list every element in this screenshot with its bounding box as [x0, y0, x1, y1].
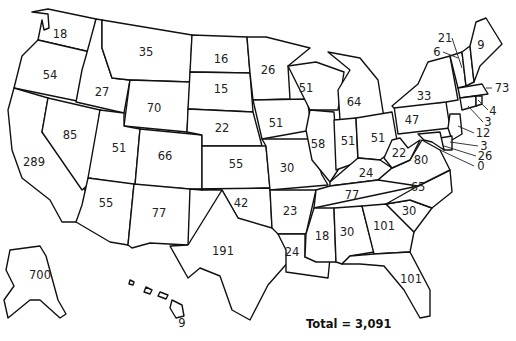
label-wa: 18 [53, 27, 68, 41]
state-me [470, 18, 502, 82]
us-map: 18 54 289 27 85 35 70 51 66 55 77 16 15 … [0, 0, 516, 341]
label-ny: 33 [417, 89, 432, 103]
label-nm: 77 [152, 206, 167, 220]
label-wi: 51 [299, 81, 314, 95]
label-mi: 64 [347, 95, 362, 109]
label-va: 80 [414, 153, 429, 167]
label-ut: 51 [112, 141, 127, 155]
label-ms: 18 [315, 229, 330, 243]
label-wy: 70 [147, 101, 162, 115]
label-id: 27 [95, 85, 110, 99]
label-mt: 35 [139, 45, 154, 59]
label-tn: 77 [345, 188, 360, 202]
label-fl: 101 [400, 272, 422, 286]
label-ca: 289 [23, 155, 45, 169]
label-nc: 65 [411, 180, 426, 194]
total-label: Total = 3,091 [306, 317, 391, 331]
label-ky: 24 [359, 166, 374, 180]
state-ct [460, 96, 476, 110]
label-al: 30 [340, 225, 355, 239]
label-ks: 55 [229, 157, 244, 171]
label-az: 55 [99, 196, 114, 210]
label-or: 54 [43, 68, 58, 82]
label-il: 58 [311, 137, 326, 151]
label-wv: 22 [392, 146, 407, 160]
label-ia: 51 [269, 116, 284, 130]
label-ma: 73 [495, 81, 510, 95]
label-vt: 21 [438, 31, 453, 45]
label-in: 51 [341, 134, 356, 148]
label-mn: 26 [261, 63, 276, 77]
label-co: 66 [158, 149, 173, 163]
label-tx: 191 [212, 244, 234, 258]
label-pa: 47 [405, 113, 420, 127]
label-ak: 700 [29, 268, 51, 282]
label-hi: 9 [178, 316, 185, 330]
label-me: 9 [477, 38, 484, 52]
label-ok: 42 [234, 196, 249, 210]
label-oh: 51 [371, 131, 386, 145]
label-ne: 22 [215, 121, 230, 135]
label-nv: 85 [63, 128, 78, 142]
state-hi-island [158, 292, 168, 299]
state-ak [4, 246, 66, 318]
label-ar: 23 [283, 204, 298, 218]
label-ga: 101 [373, 219, 395, 233]
label-sc: 30 [402, 204, 417, 218]
label-dc: 0 [477, 159, 484, 173]
leader-ct [468, 106, 483, 122]
label-sd: 15 [214, 82, 229, 96]
label-nd: 16 [214, 52, 229, 66]
label-la: 24 [285, 245, 300, 259]
label-nh: 6 [433, 45, 440, 59]
state-hi-island [144, 287, 152, 294]
label-nj: 12 [476, 126, 491, 140]
state-hi-island [129, 280, 134, 285]
leader-de [450, 142, 478, 146]
label-mo: 30 [280, 161, 295, 175]
